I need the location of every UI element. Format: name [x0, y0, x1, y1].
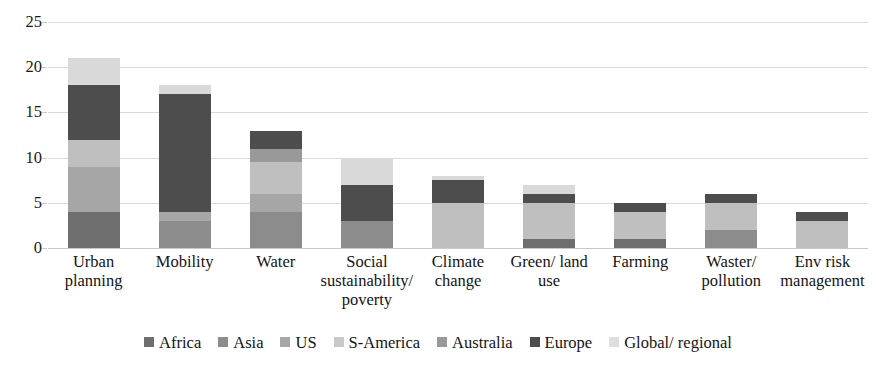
legend-label: Asia — [233, 334, 263, 351]
legend-label: Global/ regional — [624, 334, 732, 351]
bar-group — [705, 22, 757, 248]
bar-segment — [250, 212, 302, 248]
bar-segment — [68, 85, 120, 139]
bar-stack — [159, 85, 211, 248]
legend-swatch-icon — [218, 337, 228, 347]
y-tick-mark-10 — [42, 158, 47, 159]
bar-stack — [250, 131, 302, 248]
bar-segment — [159, 212, 211, 221]
bar-segment — [250, 194, 302, 212]
bars-layer — [48, 22, 868, 248]
bar-segment — [341, 158, 393, 185]
bar-segment — [250, 162, 302, 194]
y-tick-mark-15 — [42, 112, 47, 113]
bar-stack — [705, 194, 757, 248]
bar-segment — [68, 140, 120, 167]
y-tick-label-10: 10 — [8, 150, 42, 167]
bar-segment — [705, 230, 757, 248]
bar-stack — [523, 185, 575, 248]
x-axis-label-line: Env risk — [768, 252, 876, 271]
y-tick-mark-0 — [42, 248, 47, 249]
bar-segment — [341, 185, 393, 221]
bar-stack — [614, 203, 666, 248]
bar-segment — [432, 180, 484, 203]
bar-segment — [614, 212, 666, 239]
y-tick-mark-5 — [42, 203, 47, 204]
legend-label: US — [295, 334, 316, 351]
bar-segment — [523, 203, 575, 239]
bar-segment — [796, 221, 848, 248]
legend-label: S-America — [349, 334, 420, 351]
bar-segment — [250, 131, 302, 149]
bar-segment — [341, 221, 393, 248]
bar-segment — [68, 167, 120, 212]
x-axis-labels: UrbanplanningMobilityWaterSocialsustaina… — [48, 252, 868, 324]
chart-legend: AfricaAsiaUSS-AmericaAustraliaEuropeGlob… — [0, 330, 876, 354]
bar-group — [159, 22, 211, 248]
bar-segment — [159, 221, 211, 248]
bar-segment — [68, 58, 120, 85]
bar-group — [250, 22, 302, 248]
gridline-0 — [48, 248, 868, 249]
bar-segment — [614, 203, 666, 212]
bar-stack — [341, 158, 393, 248]
stacked-bar-chart: 0510152025 UrbanplanningMobilityWaterSoc… — [0, 0, 876, 371]
bar-segment — [705, 194, 757, 203]
bar-segment — [159, 85, 211, 94]
bar-segment — [614, 239, 666, 248]
legend-swatch-icon — [437, 337, 447, 347]
legend-swatch-icon — [530, 337, 540, 347]
y-tick-label-0: 0 — [8, 240, 42, 257]
bar-group — [796, 22, 848, 248]
legend-swatch-icon — [280, 337, 290, 347]
y-tick-label-20: 20 — [8, 59, 42, 76]
y-tick-mark-20 — [42, 67, 47, 68]
x-axis-label-line: planning — [39, 271, 148, 290]
x-axis-label: Env riskmanagement — [768, 252, 876, 290]
bar-segment — [523, 194, 575, 203]
bar-segment — [523, 239, 575, 248]
legend-label: Africa — [159, 334, 201, 351]
y-tick-label-5: 5 — [8, 195, 42, 212]
bar-segment — [432, 203, 484, 248]
legend-item[interactable]: Europe — [530, 334, 593, 351]
bar-segment — [159, 94, 211, 212]
y-tick-mark-25 — [42, 22, 47, 23]
bar-segment — [796, 212, 848, 221]
bar-group — [341, 22, 393, 248]
legend-label: Australia — [452, 334, 512, 351]
y-axis: 0510152025 — [0, 22, 42, 248]
bar-group — [523, 22, 575, 248]
bar-segment — [523, 185, 575, 194]
bar-group — [432, 22, 484, 248]
bar-segment — [705, 203, 757, 230]
x-axis-label-line: poverty — [312, 290, 421, 309]
legend-label: Europe — [545, 334, 593, 351]
legend-item[interactable]: Asia — [218, 334, 263, 351]
bar-segment — [250, 149, 302, 163]
legend-item[interactable]: Africa — [144, 334, 201, 351]
y-tick-label-15: 15 — [8, 104, 42, 121]
legend-item[interactable]: Australia — [437, 334, 512, 351]
legend-swatch-icon — [144, 337, 154, 347]
bar-group — [68, 22, 120, 248]
legend-item[interactable]: S-America — [334, 334, 420, 351]
bar-stack — [796, 212, 848, 248]
legend-swatch-icon — [609, 337, 619, 347]
bar-stack — [68, 58, 120, 248]
y-tick-label-25: 25 — [8, 14, 42, 31]
bar-stack — [432, 176, 484, 248]
legend-swatch-icon — [334, 337, 344, 347]
bar-segment — [68, 212, 120, 248]
x-axis-label-line: management — [768, 271, 876, 290]
x-axis-label-line: use — [495, 271, 604, 290]
bar-group — [614, 22, 666, 248]
legend-item[interactable]: US — [280, 334, 316, 351]
legend-item[interactable]: Global/ regional — [609, 334, 732, 351]
